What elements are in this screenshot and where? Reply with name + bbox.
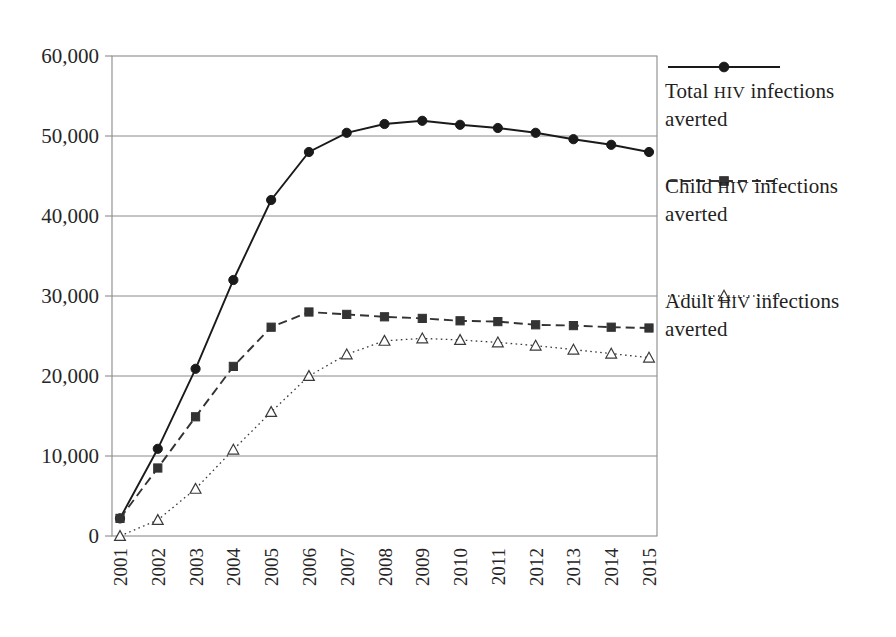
x-tick-label-2004: 2004 — [223, 548, 244, 587]
legend-total-caps: HIV — [714, 83, 745, 102]
data-point-1-5 — [305, 308, 313, 316]
data-point-1-9 — [456, 317, 464, 325]
data-point-0-2 — [191, 364, 200, 373]
legend-total-prefix: Total — [665, 79, 714, 103]
data-point-1-6 — [343, 310, 351, 318]
y-tick-marks — [105, 56, 112, 536]
data-point-0-7 — [380, 119, 389, 128]
x-tick-label-2001: 2001 — [110, 548, 131, 586]
data-point-1-12 — [569, 322, 577, 330]
x-tick-label-2003: 2003 — [186, 548, 207, 586]
x-tick-label-2002: 2002 — [148, 548, 169, 586]
data-point-1-3 — [229, 362, 237, 370]
data-point-0-8 — [418, 116, 427, 125]
x-tick-label-2010: 2010 — [450, 548, 471, 586]
data-point-0-1 — [153, 444, 162, 453]
data-point-1-14 — [645, 324, 653, 332]
data-point-1-2 — [191, 413, 199, 421]
data-point-0-14 — [644, 147, 653, 156]
chart-figure: 010,00020,00030,00040,00050,00060,000 20… — [0, 0, 896, 637]
y-axis-tick-labels: 010,00020,00030,00040,00050,00060,000 — [41, 44, 99, 548]
legend-label-total: Total HIV infections averted — [665, 78, 880, 133]
legend-child-caps: HIV — [718, 178, 749, 197]
data-point-2-4 — [266, 407, 277, 417]
data-point-1-7 — [380, 313, 388, 321]
x-tick-label-2012: 2012 — [526, 548, 547, 586]
data-point-0-12 — [569, 135, 578, 144]
y-tick-label-50000: 50,000 — [41, 124, 99, 148]
gridlines-group — [112, 136, 657, 456]
x-tick-label-2013: 2013 — [563, 548, 584, 586]
legend-key-total — [668, 62, 780, 72]
legend-adult-prefix: Adult — [665, 289, 719, 313]
legend-label-child: Child HIV infections averted — [665, 173, 880, 228]
legend-key-total-marker — [719, 62, 729, 72]
data-point-2-13 — [606, 348, 617, 358]
data-point-2-10 — [492, 337, 503, 347]
data-point-2-12 — [568, 344, 579, 354]
data-point-2-6 — [341, 349, 352, 359]
data-point-0-11 — [531, 128, 540, 137]
data-point-1-1 — [154, 464, 162, 472]
x-tick-label-2015: 2015 — [639, 548, 660, 586]
data-point-1-10 — [494, 318, 502, 326]
data-point-0-13 — [607, 140, 616, 149]
legend-adult-caps: HIV — [719, 293, 750, 312]
x-tick-label-2011: 2011 — [488, 548, 509, 585]
y-tick-label-20000: 20,000 — [41, 364, 99, 388]
x-axis-tick-labels: 2001200220032004200520062007200820092010… — [110, 548, 660, 587]
x-tick-label-2007: 2007 — [337, 548, 358, 586]
data-point-1-4 — [267, 323, 275, 331]
data-point-0-9 — [455, 120, 464, 129]
y-tick-label-0: 0 — [89, 524, 100, 548]
data-point-1-13 — [607, 323, 615, 331]
x-tick-label-2006: 2006 — [299, 548, 320, 586]
data-series-group — [115, 116, 655, 540]
y-tick-label-60000: 60,000 — [41, 44, 99, 68]
data-point-0-5 — [304, 147, 313, 156]
data-point-1-11 — [532, 321, 540, 329]
x-tick-label-2014: 2014 — [601, 548, 622, 587]
y-tick-label-40000: 40,000 — [41, 204, 99, 228]
legend-label-adult: Adult HIV infections averted — [665, 288, 880, 343]
data-point-1-0 — [116, 514, 124, 522]
data-point-1-8 — [418, 314, 426, 322]
legend-child-prefix: Child — [665, 174, 718, 198]
y-tick-label-30000: 30,000 — [41, 284, 99, 308]
data-point-0-3 — [229, 275, 238, 284]
data-point-2-7 — [379, 335, 390, 345]
data-point-0-4 — [267, 195, 276, 204]
data-point-0-6 — [342, 128, 351, 137]
x-tick-label-2009: 2009 — [412, 548, 433, 586]
data-point-0-10 — [493, 123, 502, 132]
x-tick-label-2008: 2008 — [375, 548, 396, 586]
y-tick-label-10000: 10,000 — [41, 444, 99, 468]
x-tick-label-2005: 2005 — [261, 548, 282, 586]
data-point-2-3 — [228, 444, 239, 454]
